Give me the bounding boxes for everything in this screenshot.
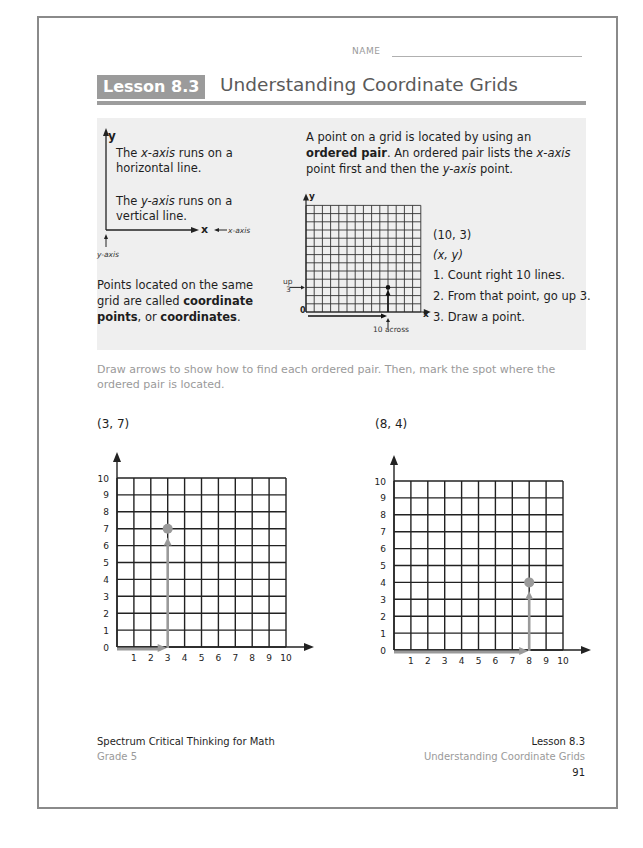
- svg-text:9: 9: [543, 656, 549, 666]
- svg-text:2: 2: [148, 653, 154, 663]
- problem-1-label: (3, 7): [97, 417, 129, 431]
- svg-text:9: 9: [266, 653, 272, 663]
- problem-2-grid[interactable]: 01234567891012345678910: [362, 443, 592, 673]
- svg-text:4: 4: [459, 656, 465, 666]
- coordinates-definition: Points located on the same grid are call…: [97, 277, 277, 325]
- svg-text:1: 1: [103, 626, 109, 636]
- svg-text:7: 7: [380, 527, 386, 537]
- svg-text:7: 7: [509, 656, 515, 666]
- svg-text:8: 8: [526, 656, 532, 666]
- y-axis-pointer-label: y-axis: [97, 250, 119, 259]
- footer-lesson-title: Understanding Coordinate Grids: [424, 751, 585, 762]
- y-axis-description: The y-axis runs on a vertical line.: [116, 194, 256, 224]
- svg-text:1: 1: [408, 656, 414, 666]
- axis-demo-x-label: x: [201, 223, 208, 236]
- svg-text:0: 0: [380, 646, 386, 656]
- x-axis-description: The x-axis runs on a horizontal line.: [116, 146, 256, 176]
- svg-text:2: 2: [425, 656, 431, 666]
- svg-text:4: 4: [103, 575, 109, 585]
- svg-text:10: 10: [98, 474, 110, 484]
- x-axis-pointer-label: x-axis: [228, 226, 250, 235]
- title-divider: [97, 101, 586, 105]
- footer-grade: Grade 5: [97, 751, 137, 762]
- problem-1-grid[interactable]: 01234567891012345678910: [85, 440, 315, 670]
- svg-text:6: 6: [216, 653, 222, 663]
- svg-text:10: 10: [280, 653, 292, 663]
- footer-book-title: Spectrum Critical Thinking for Math: [97, 736, 275, 747]
- svg-text:3: 3: [442, 656, 448, 666]
- page-title: Understanding Coordinate Grids: [220, 74, 518, 95]
- svg-text:5: 5: [103, 558, 109, 568]
- svg-text:8: 8: [103, 507, 109, 517]
- svg-text:6: 6: [380, 544, 386, 554]
- svg-text:5: 5: [476, 656, 482, 666]
- svg-text:2: 2: [380, 612, 386, 622]
- svg-text:7: 7: [232, 653, 238, 663]
- step-3: 3. Draw a point.: [433, 310, 525, 325]
- svg-text:3: 3: [103, 592, 109, 602]
- example-grid-origin-label: 0: [300, 306, 306, 315]
- axis-demo-diagram: [97, 118, 277, 258]
- svg-text:4: 4: [182, 653, 188, 663]
- example-grid-y-label: y: [309, 191, 315, 201]
- across-label: 10 across: [373, 325, 409, 334]
- svg-text:3: 3: [380, 595, 386, 605]
- step-2: 2. From that point, go up 3.: [433, 289, 591, 304]
- svg-text:2: 2: [103, 609, 109, 619]
- svg-text:10: 10: [375, 477, 387, 487]
- up-value: 3: [286, 285, 291, 294]
- page-number: 91: [572, 767, 585, 778]
- svg-text:8: 8: [249, 653, 255, 663]
- ordered-pair-definition: A point on a grid is located by using an…: [306, 129, 586, 177]
- example-grid-x-label: x: [423, 309, 429, 319]
- lesson-badge: Lesson 8.3: [97, 75, 205, 99]
- footer-lesson: Lesson 8.3: [531, 736, 585, 747]
- instructions: Draw arrows to show how to find each ord…: [97, 362, 597, 392]
- svg-text:10: 10: [557, 656, 569, 666]
- example-coordinate-grid: [270, 190, 440, 330]
- svg-text:5: 5: [199, 653, 205, 663]
- example-pair-format: (x, y): [433, 248, 463, 263]
- name-label: NAME: [352, 46, 380, 56]
- svg-text:6: 6: [103, 541, 109, 551]
- example-ordered-pair: (10, 3): [433, 228, 471, 243]
- svg-text:0: 0: [103, 643, 109, 653]
- svg-text:9: 9: [380, 493, 386, 503]
- svg-text:6: 6: [493, 656, 499, 666]
- svg-text:9: 9: [103, 490, 109, 500]
- svg-text:5: 5: [380, 561, 386, 571]
- svg-text:7: 7: [103, 524, 109, 534]
- step-1: 1. Count right 10 lines.: [433, 268, 565, 283]
- svg-text:8: 8: [380, 510, 386, 520]
- axis-demo-y-label: y: [108, 129, 116, 143]
- problem-2-label: (8, 4): [375, 417, 407, 431]
- svg-text:4: 4: [380, 578, 386, 588]
- svg-text:1: 1: [131, 653, 137, 663]
- name-input-line[interactable]: [392, 56, 582, 57]
- svg-text:3: 3: [165, 653, 171, 663]
- svg-text:1: 1: [380, 629, 386, 639]
